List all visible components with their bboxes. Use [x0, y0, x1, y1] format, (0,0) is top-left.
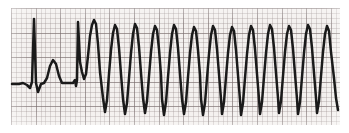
ecg-rhythm-strip [0, 0, 349, 133]
ecg-waveform-trace [0, 0, 349, 133]
ecg-trace-path [12, 19, 338, 115]
